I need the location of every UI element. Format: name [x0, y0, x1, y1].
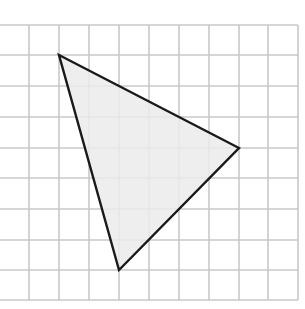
grid-diagram: [0, 0, 305, 309]
diagram-svg: [0, 0, 305, 309]
